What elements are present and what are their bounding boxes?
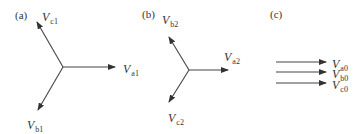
panel-label-c: (c) xyxy=(270,9,282,20)
phasor-arrow-c1 xyxy=(37,22,63,67)
panel-label-a: (a) xyxy=(15,10,27,21)
phasor-label-c2: Vc2 xyxy=(168,109,184,125)
phasor-symbol: V xyxy=(162,13,169,27)
phasor-symbol: V xyxy=(332,78,339,92)
phasor-label-c1: Vc1 xyxy=(42,8,58,24)
phasor-symbol: V xyxy=(27,118,34,132)
phasor-symbol: V xyxy=(224,50,231,64)
panel-b-phasors xyxy=(169,37,228,102)
phasor-subscript: c1 xyxy=(50,17,58,26)
phasor-arrow-b2 xyxy=(169,37,189,70)
phasor-subscript: b2 xyxy=(170,20,178,29)
phasor-symbol: V xyxy=(42,10,49,24)
panel-a-phasors xyxy=(37,22,115,110)
phasor-subscript: c2 xyxy=(176,118,184,127)
phasor-label-b1: Vb1 xyxy=(27,116,43,132)
phasor-symbol: V xyxy=(123,62,130,76)
phasor-subscript: b1 xyxy=(35,125,43,134)
phasor-subscript: c0 xyxy=(340,85,348,94)
phasor-subscript: a2 xyxy=(232,57,240,66)
panel-label-b: (b) xyxy=(142,9,155,20)
phasor-symbol: V xyxy=(168,111,175,125)
phasor-arrow-b1 xyxy=(38,67,63,110)
phasor-subscript: a1 xyxy=(131,69,139,78)
phasor-label-a1: Va1 xyxy=(123,60,139,76)
phasor-arrow-c2 xyxy=(169,70,189,102)
phasor-label-c0: Vc0 xyxy=(332,76,348,92)
panel-c-phasors xyxy=(276,62,326,83)
phasor-label-a2: Va2 xyxy=(224,48,240,64)
phasor-label-b2: Vb2 xyxy=(162,11,178,27)
